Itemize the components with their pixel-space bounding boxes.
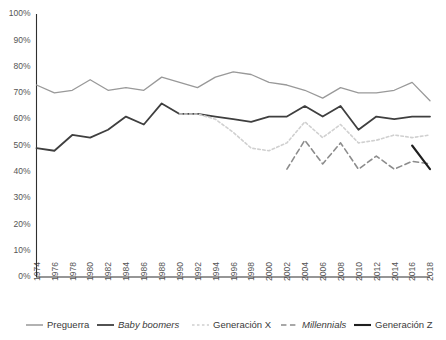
x-tick-label: 1996: [229, 262, 239, 281]
chart-legend: PreguerraBaby boomersGeneración XMillenn…: [26, 319, 433, 330]
x-tick-label: 1978: [68, 262, 78, 281]
legend-label-generaci-n-x[interactable]: Generación X: [213, 319, 272, 330]
series-line-generaci-n-z: [412, 146, 430, 170]
x-tick-label: 1980: [85, 262, 95, 281]
x-tick-label: 1984: [121, 262, 131, 281]
y-tick-label: 70%: [13, 87, 30, 97]
legend-label-baby-boomers[interactable]: Baby boomers: [118, 319, 180, 330]
y-tick-label: 30%: [13, 192, 30, 202]
x-tick-label: 1994: [211, 262, 221, 281]
line-chart: 0%10%20%30%40%50%60%70%80%90%100% 197419…: [0, 0, 446, 340]
x-tick-label: 1988: [157, 262, 167, 281]
x-tick-label: 2014: [390, 262, 400, 281]
y-tick-label: 10%: [13, 245, 30, 255]
y-tick-label: 90%: [13, 35, 30, 45]
legend-label-millennials[interactable]: Millennials: [302, 319, 347, 330]
y-tick-label: 100%: [9, 8, 31, 18]
x-tick-label: 2016: [407, 262, 417, 281]
legend-label-preguerra[interactable]: Preguerra: [47, 319, 90, 330]
x-tick-label: 1982: [103, 262, 113, 281]
x-tick-label: 1976: [50, 262, 60, 281]
chart-axes: [37, 14, 431, 277]
y-tick-label: 80%: [13, 61, 30, 71]
y-tick-label: 40%: [13, 166, 30, 176]
x-axis-tick-labels: 1974197619781980198219841986198819901992…: [32, 262, 436, 281]
x-tick-label: 2008: [336, 262, 346, 281]
x-tick-label: 1992: [193, 262, 203, 281]
x-tick-label: 2004: [300, 262, 310, 281]
chart-series-group: [37, 72, 431, 169]
x-tick-label: 2000: [264, 262, 274, 281]
series-line-baby-boomers: [37, 103, 431, 150]
x-tick-label: 1986: [139, 262, 149, 281]
y-tick-label: 20%: [13, 219, 30, 229]
x-tick-label: 1990: [175, 262, 185, 281]
chart-container: 0%10%20%30%40%50%60%70%80%90%100% 197419…: [0, 0, 446, 340]
x-tick-label: 2018: [425, 262, 435, 281]
x-tick-label: 2012: [372, 262, 382, 281]
y-tick-label: 60%: [13, 113, 30, 123]
y-tick-label: 0%: [18, 271, 31, 281]
series-line-millennials: [287, 140, 430, 169]
series-line-preguerra: [37, 72, 431, 101]
x-tick-label: 1998: [246, 262, 256, 281]
x-tick-label: 2010: [354, 262, 364, 281]
x-tick-label: 2002: [282, 262, 292, 281]
x-tick-label: 2006: [318, 262, 328, 281]
y-tick-label: 50%: [13, 140, 30, 150]
legend-label-generaci-n-z[interactable]: Generación Z: [375, 319, 433, 330]
y-axis-tick-labels: 0%10%20%30%40%50%60%70%80%90%100%: [9, 8, 31, 281]
